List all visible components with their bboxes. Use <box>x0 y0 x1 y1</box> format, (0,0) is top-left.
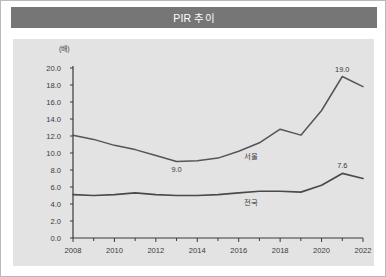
x-tick-label: 2008 <box>65 246 82 255</box>
x-tick-label: 2016 <box>230 246 247 255</box>
line-chart: (배) 0.02.04.06.08.010.012.014.016.018.02… <box>13 39 374 266</box>
data-value-label: 19.0 <box>335 65 349 74</box>
chart-canvas <box>13 39 374 266</box>
y-tick-label: 18.0 <box>35 81 61 90</box>
y-tick-label: 12.0 <box>35 132 61 141</box>
plot-panel: (배) 0.02.04.06.08.010.012.014.016.018.02… <box>13 39 374 266</box>
x-tick-label: 2014 <box>189 246 206 255</box>
x-tick-label: 2018 <box>272 246 289 255</box>
x-tick-label: 2022 <box>355 246 372 255</box>
series-label-seoul: 서울 <box>244 150 258 161</box>
x-tick-label: 2020 <box>313 246 330 255</box>
y-tick-label: 14.0 <box>35 115 61 124</box>
y-tick-label: 4.0 <box>35 200 61 209</box>
y-tick-label: 2.0 <box>35 217 61 226</box>
y-tick-label: 16.0 <box>35 98 61 107</box>
data-value-label: 7.6 <box>337 161 347 170</box>
y-tick-label: 0.0 <box>35 234 61 243</box>
y-tick-label: 8.0 <box>35 166 61 175</box>
series-label-nationwide: 전국 <box>244 196 258 207</box>
y-axis-unit-label: (배) <box>59 43 70 53</box>
data-value-label: 9.0 <box>171 165 181 174</box>
y-tick-label: 20.0 <box>35 64 61 73</box>
chart-card: PIR 추이 (배) 0.02.04.06.08.010.012.014.016… <box>0 0 386 277</box>
x-tick-label: 2010 <box>106 246 123 255</box>
y-tick-label: 10.0 <box>35 149 61 158</box>
chart-title-bar: PIR 추이 <box>11 7 377 28</box>
x-tick-label: 2012 <box>147 246 164 255</box>
y-tick-label: 6.0 <box>35 183 61 192</box>
page-title: PIR 추이 <box>173 10 215 25</box>
